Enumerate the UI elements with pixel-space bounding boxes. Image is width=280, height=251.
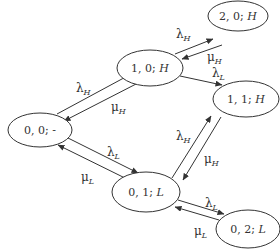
node-label: 0, 2; [230, 223, 258, 236]
svg-text:1, 0; H: 1, 0; H [131, 62, 169, 75]
node-label: 2, 0; [219, 10, 247, 23]
node-1-1-h: 1, 1; H [213, 81, 279, 117]
node-label: 1, 0; [131, 62, 159, 75]
node-0-2-l: 0, 2; L [216, 210, 280, 248]
svg-text:2, 0; H: 2, 0; H [219, 10, 257, 23]
edge-label-lambda-l: λL [212, 66, 225, 82]
svg-text:0, 1; L: 0, 1; L [128, 186, 164, 199]
edge-01-to-00 [58, 145, 131, 181]
edge-label-lambda-h: λH [76, 81, 92, 97]
edge-label-lambda-l: λL [205, 196, 218, 212]
node-0-1-l: 0, 1; L [112, 172, 180, 212]
node-2-0-h: 2, 0; H [208, 1, 268, 31]
edge-label-lambda-l: λL [107, 145, 120, 161]
node-0-0: 0, 0; - [8, 113, 72, 147]
edge-01-to-11 [172, 116, 211, 178]
svg-text:1, 1; H: 1, 1; H [227, 93, 265, 106]
edge-group-01-11: λH μH [172, 116, 221, 180]
node-label: 1, 1; [227, 93, 255, 106]
edge-11-to-01 [183, 117, 221, 180]
node-1-0-h: 1, 0; H [117, 50, 183, 86]
edge-label-mu-h: μH [204, 152, 220, 168]
edge-label-lambda-h: λH [176, 27, 192, 43]
svg-text:0, 2; L: 0, 2; L [230, 223, 266, 236]
node-label: 0, 1; [128, 186, 156, 199]
node-label: 0, 0; [24, 124, 52, 137]
edge-label-mu-h: μH [111, 100, 127, 116]
svg-text:0, 0; -: 0, 0; - [24, 124, 56, 137]
edge-label-mu-l: μL [194, 224, 207, 240]
edge-label-mu-h: μH [207, 50, 223, 66]
edge-label-mu-l: μL [81, 170, 94, 186]
state-diagram: λH μH λH μH λL λH μH λL μL λL μL 0, 0; - [0, 0, 280, 251]
edge-group-10-11: λL [180, 66, 225, 85]
edge-label-lambda-h: λH [176, 129, 192, 145]
edge-group-10-20: λH μH [175, 27, 223, 66]
